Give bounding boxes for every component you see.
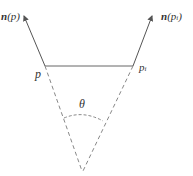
diagram-graphics bbox=[0, 0, 193, 176]
normal-arrow-p bbox=[24, 16, 45, 66]
label-normal-pi: n(pi) bbox=[161, 11, 182, 22]
label-point-p: p bbox=[35, 68, 41, 80]
dashed-line-right bbox=[83, 66, 133, 171]
label-angle-theta: θ bbox=[79, 98, 85, 110]
normals-angle-diagram: n(p) n(pi) p pi θ bbox=[0, 0, 193, 176]
label-normal-p: n(p) bbox=[1, 11, 20, 22]
normal-arrow-pi bbox=[133, 16, 152, 66]
label-point-pi: pi bbox=[139, 62, 146, 73]
angle-arc bbox=[64, 115, 103, 121]
dashed-line-left bbox=[45, 66, 82, 171]
